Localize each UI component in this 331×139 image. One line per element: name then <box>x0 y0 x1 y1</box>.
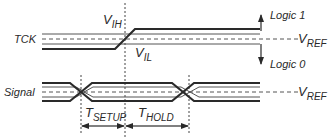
tsetup-label: TSETUP <box>85 106 126 123</box>
vref-label-signal: VREF <box>298 85 327 102</box>
signal-waveform <box>42 83 300 101</box>
signal-label: Signal <box>4 87 35 98</box>
thold-label: THOLD <box>138 106 174 123</box>
signal-thin-right <box>190 87 260 92</box>
tck-waveform <box>42 15 300 64</box>
vref-label-tck: VREF <box>298 32 327 49</box>
vih-label: VIH <box>103 13 122 30</box>
tck-label: TCK <box>14 34 36 45</box>
vil-label: VIL <box>135 46 152 63</box>
logic0-label: Logic 0 <box>270 59 305 70</box>
logic1-label: Logic 1 <box>270 10 305 21</box>
